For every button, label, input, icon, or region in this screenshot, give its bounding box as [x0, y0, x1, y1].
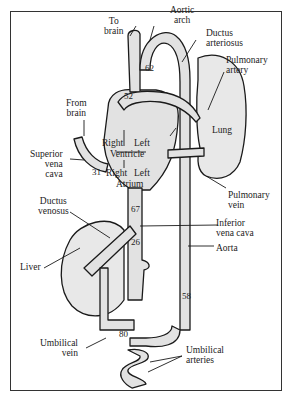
- label-superior-vena-cava: Superiorvenacava: [30, 149, 63, 179]
- umbilical-artery-shape: [130, 326, 180, 347]
- aorta-to-brain-shape: [128, 30, 140, 92]
- umbilical-cord-shape: [121, 349, 149, 388]
- label-inferior-vena-cava: Inferiorvena cava: [216, 218, 254, 238]
- label-pulmonary-artery: Pulmonaryartery: [226, 55, 268, 75]
- label-aortic-arch: Aorticarch: [170, 5, 194, 25]
- label-left-atrium: Left: [134, 168, 150, 178]
- pulmonary-vein-shape: [168, 148, 204, 158]
- value-pulmonary-trunk: 52: [124, 92, 133, 101]
- label-from-brain: Frombrain: [66, 98, 87, 118]
- label-atrium: Atrium: [116, 179, 143, 189]
- label-umbilical-arteries: Umbilicalarteries: [186, 345, 224, 365]
- label-ventricle: Ventricle: [110, 149, 144, 159]
- label-lung: Lung: [212, 125, 232, 135]
- label-ductus-venosus: Ductusvenosus: [38, 196, 69, 216]
- label-right-atrium: Right: [106, 168, 127, 178]
- label-right-ventricle: Right: [102, 138, 123, 148]
- label-aorta: Aorta: [216, 243, 238, 253]
- label-to-brain: Tobrain: [104, 16, 124, 36]
- label-umbilical-vein: Umbilicalvein: [40, 338, 78, 358]
- value-descending-aorta: 58: [182, 292, 191, 301]
- label-pulmonary-vein: Pulmonaryvein: [228, 190, 270, 210]
- label-liver: Liver: [20, 262, 41, 272]
- value-aortic-arch: 62: [145, 64, 154, 73]
- label-left-ventricle: Left: [134, 138, 150, 148]
- value-ivc-upper: 67: [131, 205, 140, 214]
- value-ivc-lower: 26: [131, 238, 140, 247]
- label-ductus-arteriosus: Ductusarteriosus: [206, 28, 243, 48]
- value-superior-vena-cava: 31: [92, 168, 101, 177]
- value-umbilical-vein: 80: [119, 330, 128, 339]
